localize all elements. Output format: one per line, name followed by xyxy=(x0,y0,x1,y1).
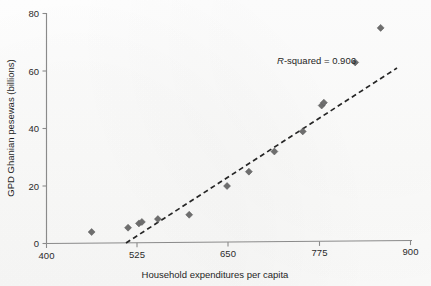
x-axis-line xyxy=(47,241,413,244)
y-axis-title: GPD Ghanian pesewas (billions) xyxy=(5,59,16,196)
data-point-marker xyxy=(88,229,95,236)
y-tick-label-80: 80 xyxy=(28,8,39,19)
data-point-marker xyxy=(154,216,161,223)
r-squared-annotation: R-squared = 0.906 xyxy=(277,55,356,66)
x-tick-label-400: 400 xyxy=(39,250,55,261)
data-point-marker xyxy=(245,168,252,175)
data-point-marker xyxy=(224,183,231,190)
y-axis-tick-labels: 0 20 40 60 80 xyxy=(28,8,39,249)
r-squared-value-text: -squared = 0.906 xyxy=(284,55,356,66)
x-tick-label-900: 900 xyxy=(403,246,419,257)
data-point-marker xyxy=(299,128,306,135)
data-point-marker xyxy=(186,211,193,218)
x-axis-title: Household expenditures per capita xyxy=(142,269,290,280)
x-tick-label-650: 650 xyxy=(220,248,236,259)
y-tick-label-0: 0 xyxy=(34,238,39,249)
y-tick-label-60: 60 xyxy=(28,66,39,77)
data-point-marker xyxy=(125,224,132,231)
data-point-marker xyxy=(271,148,278,155)
y-axis-ticks xyxy=(43,14,47,244)
x-tick-label-525: 525 xyxy=(129,249,145,260)
plot-canvas: 0 20 40 60 80 400 525 650 775 900 Househ… xyxy=(0,0,431,286)
data-point-marker xyxy=(377,24,384,31)
x-tick-label-775: 775 xyxy=(312,247,328,258)
scatter-chart-figure: 0 20 40 60 80 400 525 650 775 900 Househ… xyxy=(0,0,431,286)
y-tick-label-40: 40 xyxy=(28,123,39,134)
y-tick-label-20: 20 xyxy=(28,181,39,192)
x-axis-tick-labels: 400 525 650 775 900 xyxy=(39,246,419,261)
trend-line xyxy=(126,68,397,243)
